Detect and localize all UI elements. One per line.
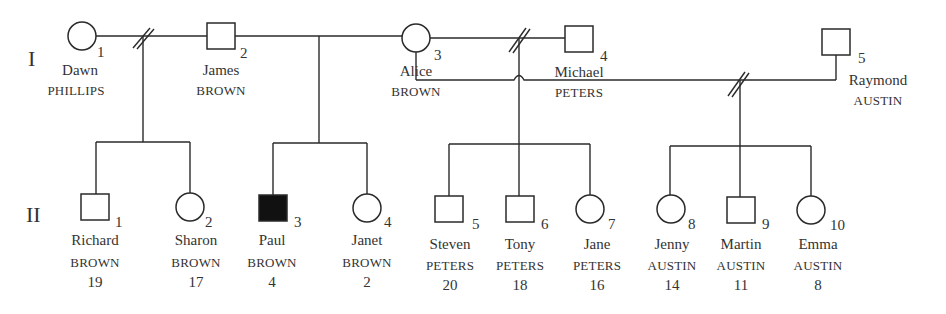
pedigree-chart: I II xyxy=(0,0,946,314)
individual-i-5[interactable]: 5 Raymond AUSTIN xyxy=(822,29,908,108)
surname: PETERS xyxy=(573,258,621,273)
surname: BROWN xyxy=(70,255,120,270)
given-name: Jane xyxy=(584,236,611,252)
male-symbol-affected xyxy=(259,195,287,221)
given-name: Raymond xyxy=(849,72,908,88)
relationship-lines xyxy=(96,28,836,197)
given-name: Sharon xyxy=(175,232,218,248)
individual-number: 2 xyxy=(240,45,248,61)
individual-number: 1 xyxy=(115,214,123,230)
generation-label-ii: II xyxy=(26,202,41,227)
age: 18 xyxy=(513,277,528,293)
surname: PHILLIPS xyxy=(47,83,104,98)
given-name: Martin xyxy=(721,236,762,252)
surname: BROWN xyxy=(342,255,392,270)
female-symbol xyxy=(402,24,430,52)
male-symbol xyxy=(565,26,593,52)
divorce-mark-2b xyxy=(513,29,530,53)
divorce-mark-3a xyxy=(728,72,745,96)
female-symbol xyxy=(657,195,685,223)
individual-ii-5[interactable]: 5 Steven PETERS 20 xyxy=(426,196,480,293)
surname: BROWN xyxy=(391,84,441,99)
individual-ii-10[interactable]: 10 Emma AUSTIN 8 xyxy=(794,196,845,293)
individual-number: 4 xyxy=(384,214,392,230)
given-name: Tony xyxy=(505,236,536,252)
given-name: Alice xyxy=(400,63,433,79)
surname: PETERS xyxy=(426,258,474,273)
surname: BROWN xyxy=(247,255,297,270)
individual-ii-6[interactable]: 6 Tony PETERS 18 xyxy=(496,196,549,293)
female-symbol xyxy=(353,194,381,222)
given-name: Janet xyxy=(352,232,384,248)
age: 17 xyxy=(189,274,205,290)
male-symbol xyxy=(727,197,755,223)
divorce-mark-1a xyxy=(133,28,150,48)
divorce-mark-1b xyxy=(137,29,154,49)
individual-number: 8 xyxy=(688,216,696,232)
individual-number: 5 xyxy=(472,216,480,232)
individual-number: 9 xyxy=(762,216,770,232)
age: 19 xyxy=(88,274,103,290)
individual-number: 5 xyxy=(858,50,866,66)
age: 16 xyxy=(590,277,606,293)
male-symbol xyxy=(81,194,109,220)
individual-i-4[interactable]: 4 Michael PETERS xyxy=(554,26,608,100)
age: 4 xyxy=(268,274,276,290)
individual-number: 4 xyxy=(600,48,608,64)
individual-number: 7 xyxy=(608,216,616,232)
surname: AUSTIN xyxy=(854,93,903,108)
given-name: James xyxy=(203,62,240,78)
age: 11 xyxy=(734,277,748,293)
surname: PETERS xyxy=(555,85,603,100)
individual-i-2[interactable]: 2 James BROWN xyxy=(196,23,247,98)
surname: BROWN xyxy=(196,83,246,98)
female-symbol xyxy=(68,22,96,50)
age: 20 xyxy=(443,277,458,293)
surname: AUSTIN xyxy=(648,258,697,273)
age: 8 xyxy=(814,277,822,293)
individual-ii-8[interactable]: 8 Jenny AUSTIN 14 xyxy=(648,195,697,293)
individual-number: 10 xyxy=(830,217,845,233)
individual-number: 3 xyxy=(434,47,442,63)
union-line-alice-raymond xyxy=(416,76,836,81)
age: 2 xyxy=(363,274,371,290)
given-name: Jenny xyxy=(655,236,690,252)
individual-ii-3[interactable]: 3 Paul BROWN 4 xyxy=(247,195,301,290)
female-symbol xyxy=(576,195,604,223)
individual-number: 2 xyxy=(205,214,213,230)
given-name: Steven xyxy=(430,236,471,252)
individual-number: 3 xyxy=(294,214,302,230)
individual-number: 6 xyxy=(541,216,549,232)
generation-label-i: I xyxy=(28,46,35,71)
given-name: Richard xyxy=(71,232,119,248)
male-symbol xyxy=(435,196,463,222)
male-symbol xyxy=(207,23,235,49)
age: 14 xyxy=(665,277,681,293)
surname: PETERS xyxy=(496,258,544,273)
individual-number: 1 xyxy=(97,44,105,60)
given-name: Paul xyxy=(259,232,286,248)
given-name: Emma xyxy=(798,236,837,252)
female-symbol xyxy=(797,196,825,224)
divorce-mark-2a xyxy=(509,28,526,52)
individual-ii-9[interactable]: 9 Martin AUSTIN 11 xyxy=(717,197,770,293)
surname: AUSTIN xyxy=(794,258,843,273)
male-symbol xyxy=(822,29,850,55)
individual-i-1[interactable]: 1 Dawn PHILLIPS xyxy=(47,22,104,98)
female-symbol xyxy=(176,193,204,221)
individual-ii-4[interactable]: 4 Janet BROWN 2 xyxy=(342,194,392,290)
given-name: Dawn xyxy=(62,62,98,78)
individual-ii-1[interactable]: 1 Richard BROWN 19 xyxy=(70,194,122,290)
male-symbol xyxy=(506,196,534,222)
surname: BROWN xyxy=(171,255,221,270)
individual-ii-7[interactable]: 7 Jane PETERS 16 xyxy=(573,195,621,293)
individual-ii-2[interactable]: 2 Sharon BROWN 17 xyxy=(171,193,221,290)
surname: AUSTIN xyxy=(717,258,766,273)
given-name: Michael xyxy=(554,64,603,80)
